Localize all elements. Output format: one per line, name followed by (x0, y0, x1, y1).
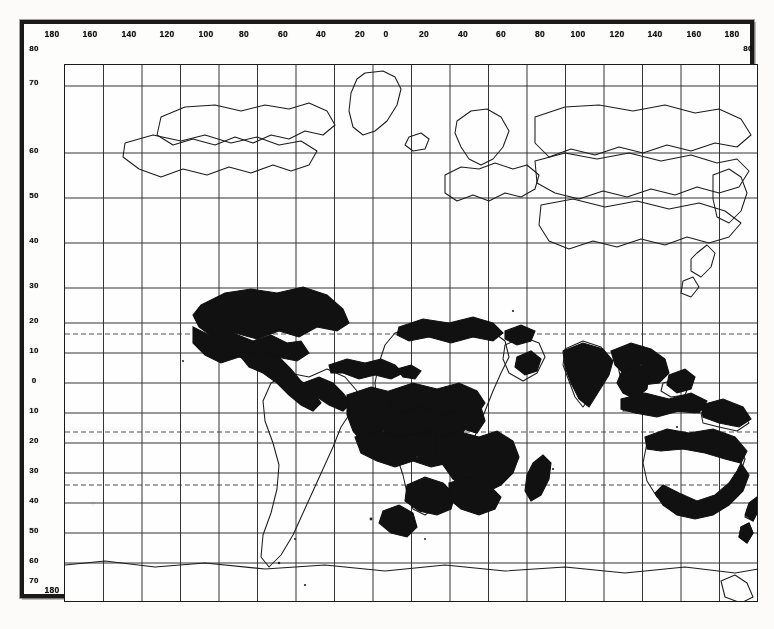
lat-tick-label: 70 (29, 78, 38, 87)
lon-tick-label: 120 (160, 29, 175, 39)
map-canvas (65, 65, 757, 601)
lat-tick-label: 80 (29, 44, 38, 53)
lon-tick-label: 160 (83, 29, 98, 39)
lat-tick-label: 10 (29, 346, 38, 355)
lat-tick-label: 60 (29, 556, 38, 565)
lon-tick-label: 80 (239, 29, 249, 39)
lon-tick-label: 40 (458, 29, 468, 39)
lon-tick-label: 180 (45, 585, 60, 595)
lon-tick-label: 20 (419, 29, 429, 39)
lat-tick-label: 50 (29, 526, 38, 535)
lat-tick-label: 40 (29, 236, 38, 245)
lat-tick-label: 40 (29, 496, 38, 505)
lon-tick-label: 60 (496, 29, 506, 39)
lon-tick-label: 60 (278, 29, 288, 39)
distribution-shaded-areas (193, 287, 757, 543)
figure-page: 180 160 140 120 100 80 60 40 20 0 20 40 … (0, 0, 774, 629)
map-graticule-frame (64, 64, 758, 602)
lon-tick-label: 160 (687, 29, 702, 39)
world-distribution-map (65, 65, 757, 601)
lon-tick-label: 120 (610, 29, 625, 39)
lat-tick-label: 30 (29, 466, 38, 475)
lat-tick-label: 0 (32, 376, 37, 385)
lon-tick-label: 0 (384, 29, 389, 39)
lat-tick-label: 60 (29, 146, 38, 155)
lon-tick-label: 40 (316, 29, 326, 39)
lon-tick-label: 140 (648, 29, 663, 39)
lon-tick-label: 140 (122, 29, 137, 39)
lon-tick-label: 180 (45, 29, 60, 39)
lon-tick-label: 80 (535, 29, 545, 39)
lon-tick-label: 100 (199, 29, 214, 39)
lat-tick-label: 50 (29, 191, 38, 200)
lon-tick-label: 180 (725, 29, 740, 39)
lon-tick-label: 20 (355, 29, 365, 39)
lat-tick-label: 20 (29, 316, 38, 325)
lon-tick-label: 100 (571, 29, 586, 39)
lat-tick-label: 10 (29, 406, 38, 415)
map-plate-border: 180 160 140 120 100 80 60 40 20 0 20 40 … (20, 20, 754, 598)
lat-tick-label: 80 (743, 44, 752, 53)
lat-tick-label: 70 (29, 576, 38, 585)
lat-tick-label: 20 (29, 436, 38, 445)
lat-tick-label: 30 (29, 281, 38, 290)
